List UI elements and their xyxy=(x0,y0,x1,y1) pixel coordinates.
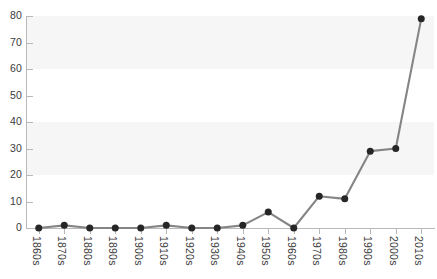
series-markers xyxy=(35,15,425,231)
data-point xyxy=(392,145,399,152)
data-point xyxy=(367,148,374,155)
data-point xyxy=(188,225,195,232)
series-line-count-by-decade xyxy=(39,19,422,228)
data-point xyxy=(290,225,297,232)
series-layer xyxy=(0,0,437,279)
line-chart: 01020304050607080 1860s1870s1880s1890s19… xyxy=(0,0,437,279)
data-point xyxy=(316,193,323,200)
data-point xyxy=(112,225,119,232)
data-point xyxy=(239,222,246,229)
data-point xyxy=(35,225,42,232)
data-point xyxy=(418,15,425,22)
data-point xyxy=(61,222,68,229)
data-point xyxy=(341,195,348,202)
data-point xyxy=(86,225,93,232)
data-point xyxy=(163,222,170,229)
data-point xyxy=(137,225,144,232)
data-point xyxy=(265,209,272,216)
data-point xyxy=(214,225,221,232)
